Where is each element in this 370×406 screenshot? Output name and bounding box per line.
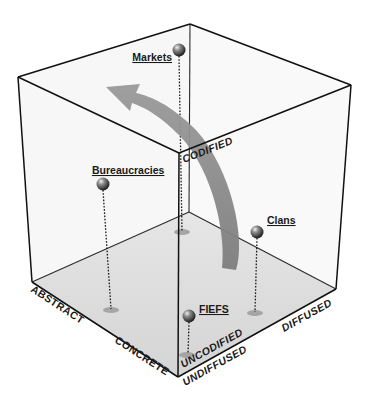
markets-sphere[interactable] [173, 44, 186, 57]
clans-label: Clans [267, 214, 296, 226]
bureaucracies-shadow [103, 307, 119, 313]
fiefs-sphere[interactable] [183, 310, 196, 323]
cube-diagram: Markets Bureaucracies Clans FIEFS CODIFI… [0, 0, 370, 406]
bureaucracies-sphere[interactable] [97, 178, 110, 191]
clans-shadow [247, 310, 263, 316]
clans-sphere[interactable] [251, 226, 264, 239]
fiefs-label: FIEFS [199, 303, 229, 315]
bureaucracies-label: Bureaucracies [92, 164, 165, 176]
markets-label: Markets [132, 51, 172, 63]
